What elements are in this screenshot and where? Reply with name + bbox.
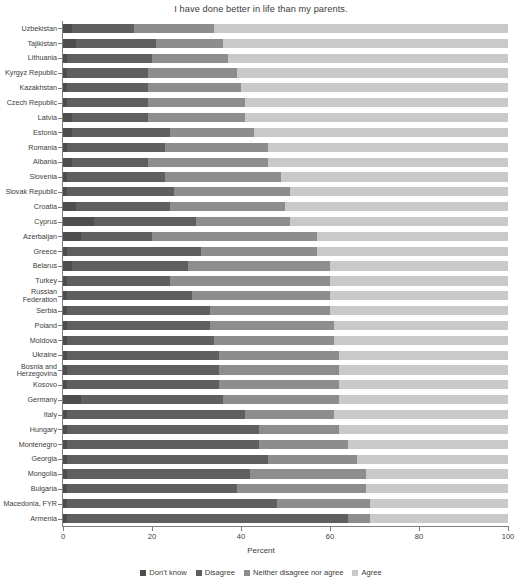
bar-segment-agree [348, 440, 508, 449]
bar-row [63, 306, 508, 315]
y-axis-tick [58, 207, 62, 208]
stacked-bar [63, 247, 508, 256]
y-axis-tick [58, 355, 62, 356]
y-axis-tick [58, 251, 62, 252]
bar-segment-neither-disagree-nor-agree [192, 291, 330, 300]
stacked-bar [63, 83, 508, 92]
bar-segment-neither-disagree-nor-agree [152, 54, 228, 63]
y-axis-tick [58, 28, 62, 29]
bar-segment-agree [268, 158, 508, 167]
bar-segment-agree [339, 351, 508, 360]
y-axis-label: Czech Republic [7, 99, 57, 106]
bar-segment-disagree [67, 484, 236, 493]
stacked-bar [63, 321, 508, 330]
bar-segment-disagree [67, 98, 147, 107]
y-axis-tick [58, 296, 62, 297]
y-axis-label: Lithuania [28, 54, 57, 61]
bar-row [63, 499, 508, 508]
bar-segment-disagree [67, 351, 218, 360]
y-axis-label: Croatia [34, 203, 57, 210]
bar-segment-neither-disagree-nor-agree [268, 455, 357, 464]
legend-item[interactable]: Neither disagree nor agree [244, 568, 343, 577]
x-axis-tick [508, 527, 509, 531]
x-axis-tick [152, 527, 153, 531]
y-axis-label: Slovenia [29, 173, 57, 180]
bar-segment-don-t-know [63, 261, 72, 270]
x-axis-tick-label: 0 [61, 532, 65, 541]
y-axis-label: Bulgaria [31, 485, 57, 492]
y-axis-tick [58, 400, 62, 401]
stacked-bar [63, 217, 508, 226]
bar-segment-agree [339, 365, 508, 374]
bar-segment-disagree [72, 24, 134, 33]
chart-legend: Don't knowDisagreeNeither disagree nor a… [0, 568, 522, 577]
bar-segment-disagree [67, 291, 192, 300]
bar-segment-disagree [72, 261, 188, 270]
bar-segment-agree [339, 380, 508, 389]
bar-segment-neither-disagree-nor-agree [219, 365, 339, 374]
y-axis-tick [58, 58, 62, 59]
bar-segment-neither-disagree-nor-agree [277, 499, 370, 508]
legend-item[interactable]: Don't know [140, 568, 186, 577]
x-axis-tick-label: 60 [326, 532, 334, 541]
y-axis-label: Romania [28, 144, 57, 151]
x-axis-tick-label: 80 [415, 532, 423, 541]
y-axis-label: Ukraine [32, 351, 57, 358]
bar-row [63, 425, 508, 434]
y-axis-label: Moldova [30, 337, 57, 344]
legend-item[interactable]: Disagree [196, 568, 235, 577]
bar-segment-neither-disagree-nor-agree [210, 321, 335, 330]
stacked-bar [63, 351, 508, 360]
y-axis-tick [58, 340, 62, 341]
y-axis-label: Belarus [33, 262, 57, 269]
bar-segment-disagree [67, 425, 258, 434]
x-axis-tick [330, 527, 331, 531]
y-axis-tick [58, 519, 62, 520]
legend-item[interactable]: Agree [352, 568, 381, 577]
legend-label: Agree [361, 568, 381, 577]
bar-segment-disagree [67, 306, 209, 315]
bar-segment-agree [330, 291, 508, 300]
bar-segment-disagree [67, 336, 214, 345]
y-axis-tick [58, 474, 62, 475]
bar-segment-disagree [81, 232, 152, 241]
bar-row [63, 469, 508, 478]
bar-row [63, 172, 508, 181]
bar-row [63, 54, 508, 63]
stacked-bar [63, 128, 508, 137]
bar-segment-disagree [67, 187, 174, 196]
stacked-bar [63, 39, 508, 48]
bar-segment-don-t-know [63, 39, 76, 48]
bar-segment-agree [281, 172, 508, 181]
bar-segment-agree [290, 217, 508, 226]
bar-segment-agree [268, 143, 508, 152]
bar-row [63, 455, 508, 464]
bar-segment-neither-disagree-nor-agree [259, 440, 348, 449]
bar-segment-disagree [67, 440, 258, 449]
stacked-bar [63, 380, 508, 389]
y-axis-tick [58, 325, 62, 326]
bar-segment-neither-disagree-nor-agree [214, 336, 334, 345]
bar-row [63, 276, 508, 285]
bar-segment-agree [357, 455, 508, 464]
bar-row [63, 128, 508, 137]
y-axis-tick [58, 370, 62, 371]
bar-segment-neither-disagree-nor-agree [250, 469, 366, 478]
stacked-bar [63, 54, 508, 63]
y-axis-label: Greece [33, 248, 57, 255]
bar-segment-don-t-know [63, 113, 72, 122]
y-axis-tick [58, 311, 62, 312]
plot-area [63, 21, 508, 526]
bar-segment-neither-disagree-nor-agree [259, 425, 339, 434]
stacked-bar [63, 499, 508, 508]
bar-segment-neither-disagree-nor-agree [152, 232, 317, 241]
legend-label: Disagree [205, 568, 235, 577]
bar-segment-neither-disagree-nor-agree [148, 83, 241, 92]
y-axis-tick [58, 266, 62, 267]
legend-label: Neither disagree nor agree [253, 568, 343, 577]
bar-segment-agree [366, 469, 508, 478]
bar-row [63, 113, 508, 122]
bar-segment-agree [334, 336, 508, 345]
y-axis-tick [58, 118, 62, 119]
bar-segment-disagree [76, 202, 169, 211]
